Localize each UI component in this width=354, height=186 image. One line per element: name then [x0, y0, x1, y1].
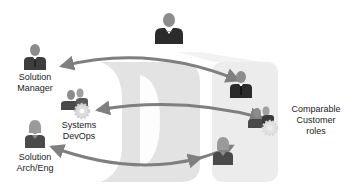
label-line: Arch/Eng	[6, 163, 64, 174]
label-systems-devops: Systems DevOps	[54, 120, 104, 142]
label-line: roles	[283, 126, 349, 137]
team-with-gear-icon	[61, 89, 89, 119]
callout-wedge	[178, 52, 262, 62]
label-line: DevOps	[54, 131, 104, 142]
label-line: Customer	[283, 115, 349, 126]
label-solution-manager: Solution Manager	[6, 72, 64, 94]
manager-person-icon	[24, 44, 46, 70]
label-line: Solution	[6, 72, 64, 83]
label-comparable-customer-roles: Comparable Customer roles	[283, 104, 349, 137]
label-line: Manager	[6, 83, 64, 94]
label-line: Systems	[54, 120, 104, 131]
label-line: Solution	[6, 152, 64, 163]
female-person-icon	[25, 120, 45, 148]
label-line: Comparable	[283, 104, 349, 115]
label-solution-archeng: Solution Arch/Eng	[6, 152, 64, 174]
executive-person-icon	[155, 13, 183, 44]
